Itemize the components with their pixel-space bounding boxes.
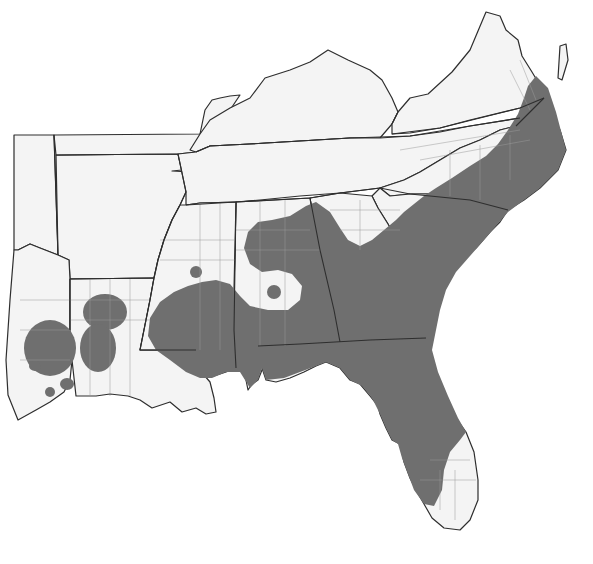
state-delmarva (558, 44, 568, 80)
range-patch-small-3 (45, 387, 55, 397)
range-patch-small-2 (60, 378, 74, 390)
range-patch-louisiana-central (80, 324, 116, 372)
range-patch-louisiana-north (83, 294, 127, 330)
range-patch-small-1 (29, 361, 41, 371)
state-oklahoma (14, 135, 58, 255)
range-patch-alabama-inner (267, 285, 281, 299)
range-map (0, 0, 593, 564)
map-svg (0, 0, 593, 564)
